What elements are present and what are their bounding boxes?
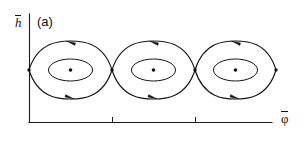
- separatrix-lobe-1-lower-branch: [29, 70, 112, 99]
- separatrix-lobe-3: [195, 41, 276, 99]
- x-axis-label-glyph: φ: [281, 111, 289, 125]
- separatrix-lobe-2: [112, 41, 195, 99]
- y-axis-label: h: [15, 15, 22, 29]
- flow-arrow-lobe-2-lower-right-icon: [148, 95, 157, 99]
- hyperbolic-fixed-point-2: [110, 68, 113, 71]
- elliptic-fixed-point-3: [234, 68, 238, 72]
- separatrix-lobe-2-lower-branch: [112, 70, 195, 99]
- hyperbolic-fixed-point-4: [274, 68, 277, 71]
- separatrix-lobe-2-upper-branch: [112, 41, 195, 70]
- panel-label: (a): [37, 15, 53, 28]
- flow-arrow-lobe-3-lower-right-icon: [230, 95, 239, 99]
- x-axis-label: φ: [281, 111, 289, 125]
- separatrix-lobe-1: [29, 41, 112, 99]
- hyperbolic-fixed-point-1: [27, 68, 30, 71]
- flow-arrow-lobe-2-upper-left-icon: [150, 41, 159, 45]
- y-axis-label-glyph: h: [15, 15, 22, 29]
- phase-portrait-figure: h (a) φ: [0, 0, 303, 144]
- separatrix-lobe-3-lower-branch: [195, 70, 276, 99]
- separatrix-lobe-3-upper-branch: [195, 41, 276, 70]
- flow-arrow-lobe-1-lower-right-icon: [65, 95, 74, 99]
- flow-arrow-lobe-3-upper-left-icon: [232, 41, 241, 45]
- hyperbolic-fixed-point-3: [193, 68, 196, 71]
- elliptic-fixed-point-1: [69, 68, 73, 72]
- separatrix-lobe-1-upper-branch: [29, 41, 112, 70]
- elliptic-fixed-point-2: [152, 68, 156, 72]
- flow-arrow-lobe-1-upper-left-icon: [67, 41, 76, 45]
